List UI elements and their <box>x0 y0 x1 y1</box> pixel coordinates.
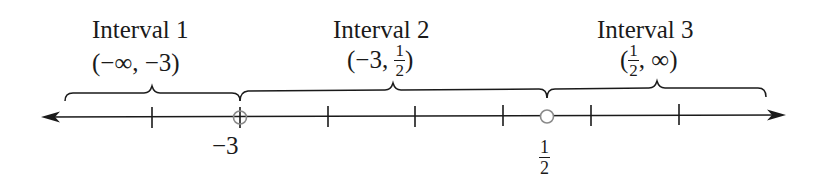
fraction-numerator: 1 <box>628 42 639 61</box>
close-paren: ) <box>171 49 179 76</box>
separator: , <box>132 49 145 76</box>
fraction-denominator: 2 <box>628 61 639 79</box>
interval-1-left-bound: −∞ <box>100 49 132 76</box>
close-paren: ) <box>669 46 677 73</box>
point-label-minus-3: −3 <box>212 133 239 158</box>
interval-2-notation: (−3, 12) <box>347 44 413 81</box>
interval-3-notation: (12, ∞) <box>620 44 677 81</box>
interval-3-title: Interval 3 <box>597 17 693 42</box>
open-paren: ( <box>620 46 628 73</box>
interval-2-right-bound-fraction: 12 <box>394 42 405 79</box>
fraction-denominator: 2 <box>394 61 405 79</box>
interval-2-title: Interval 2 <box>333 17 429 42</box>
fraction-numerator: 1 <box>394 42 405 61</box>
number-line-diagram: Interval 1 Interval 2 Interval 3 (−∞, −3… <box>0 0 822 186</box>
interval-3-left-bound-fraction: 12 <box>628 42 639 79</box>
separator: , <box>382 46 395 73</box>
brace-interval-1 <box>65 86 240 101</box>
interval-3-right-bound: ∞ <box>651 46 669 73</box>
separator: , <box>639 46 652 73</box>
braces <box>65 81 766 101</box>
number-line-axis <box>46 115 780 117</box>
one-half-fraction: 12 <box>539 138 550 177</box>
brace-interval-3 <box>547 81 766 98</box>
fraction-numerator: 1 <box>539 138 550 158</box>
close-paren: ) <box>405 46 413 73</box>
interval-1-title: Interval 1 <box>92 17 188 42</box>
point-label-one-half: 12 <box>539 138 550 177</box>
brace-interval-2 <box>240 83 547 101</box>
open-circle-one-half <box>541 110 554 123</box>
interval-1-notation: (−∞, −3) <box>92 50 180 75</box>
interval-1-right-bound: −3 <box>145 49 172 76</box>
fraction-denominator: 2 <box>539 158 550 177</box>
interval-2-left-bound: −3 <box>355 46 382 73</box>
